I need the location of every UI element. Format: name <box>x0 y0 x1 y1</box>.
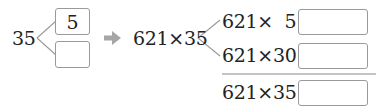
total-answer[interactable] <box>298 80 368 106</box>
decomposed-number: 35 <box>12 29 36 48</box>
part-value-top: 5 <box>56 11 89 33</box>
part-box-top[interactable]: 5 <box>55 8 90 35</box>
partial-product-answer-1[interactable] <box>298 9 368 35</box>
main-expression: 621×35 <box>133 29 208 48</box>
part-box-bottom[interactable] <box>55 41 90 68</box>
partial-product-answer-2[interactable] <box>298 43 368 69</box>
right-arrow-icon <box>104 31 121 45</box>
